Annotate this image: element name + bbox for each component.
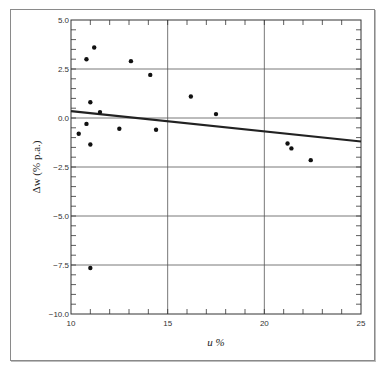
grid-lines	[71, 20, 361, 314]
y-tick-label: 5.0	[58, 16, 70, 25]
x-tick-label: 25	[357, 319, 366, 328]
y-tick-label: 2.5	[58, 65, 70, 74]
data-point	[117, 127, 121, 131]
data-points	[77, 45, 313, 270]
scatter-chart: 10152025 5.02.50.0−2.5−5.0−7.5−10.0 u % …	[0, 0, 383, 370]
y-tick-label: −5.0	[53, 212, 69, 221]
data-point	[285, 141, 289, 145]
data-point	[92, 45, 96, 49]
y-axis-label: Δw (% p.a.)	[30, 140, 43, 193]
data-point	[129, 59, 133, 63]
data-point	[309, 158, 313, 162]
data-point	[88, 100, 92, 104]
y-tick-label: −2.5	[53, 163, 69, 172]
data-point	[214, 112, 218, 116]
x-tick-label: 15	[163, 319, 172, 328]
y-tick-label: −10.0	[49, 310, 70, 319]
data-point	[77, 131, 81, 135]
data-point	[154, 128, 158, 132]
data-point	[98, 110, 102, 114]
y-tick-labels: 5.02.50.0−2.5−5.0−7.5−10.0	[49, 16, 70, 319]
y-tick-label: −7.5	[53, 261, 69, 270]
data-point	[84, 122, 88, 126]
data-point	[84, 57, 88, 61]
data-point	[148, 73, 152, 77]
data-point	[189, 94, 193, 98]
data-point	[88, 266, 92, 270]
data-point	[88, 142, 92, 146]
data-point	[289, 146, 293, 150]
x-axis-label: u %	[207, 336, 224, 348]
y-tick-label: 0.0	[58, 114, 70, 123]
x-tick-label: 10	[67, 319, 76, 328]
x-tick-labels: 10152025	[67, 319, 366, 328]
x-tick-label: 20	[260, 319, 269, 328]
